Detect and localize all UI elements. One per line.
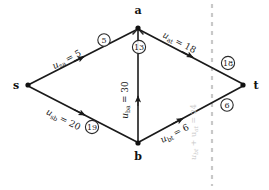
circled-number-at-value: 18 xyxy=(223,59,233,68)
circled-number-sa-value: 5 xyxy=(101,36,106,45)
node-label-t: t xyxy=(253,79,259,92)
node-dot-t[interactable] xyxy=(240,82,245,87)
circled-number-bt: 6 xyxy=(221,99,233,111)
network-flow-diagram: s a b t usa= 5 usb= 20 uba= 30 uat= 18 xyxy=(0,0,269,190)
edge-label-ba: uba= 30 xyxy=(120,81,132,119)
circled-number-ba: 13 xyxy=(132,40,145,53)
cut-annotation-eq: = 24 xyxy=(189,104,198,126)
edge-label-sb-eq: = 20 xyxy=(58,113,82,132)
circled-number-sa: 5 xyxy=(98,34,110,46)
edge-label-at-eq: = 18 xyxy=(174,36,198,55)
svg-text:uba= 30: uba= 30 xyxy=(120,81,132,119)
circled-number-at: 18 xyxy=(221,56,234,69)
circled-number-sb: 19 xyxy=(85,120,98,133)
svg-text:usa= 5: usa= 5 xyxy=(51,48,84,73)
svg-text:ubt= 6: ubt= 6 xyxy=(159,122,192,147)
edge-label-ba-eq: = 30 xyxy=(120,81,130,103)
svg-text:ubt + uat = 24: ubt + uat = 24 xyxy=(189,104,199,160)
circled-number-ba-value: 13 xyxy=(134,43,144,52)
circled-number-sb-value: 19 xyxy=(87,123,97,132)
node-label-b: b xyxy=(134,150,142,163)
cut-annotation: ubt + uat = 24 xyxy=(189,104,199,160)
edge-label-bt: ubt= 6 xyxy=(159,122,192,147)
cut-annotation-mid: + u xyxy=(189,132,198,149)
edge-label-bt-eq: = 6 xyxy=(172,122,191,138)
node-dot-b[interactable] xyxy=(135,140,140,145)
circled-number-bt-value: 6 xyxy=(224,101,229,110)
edge-label-sa: usa= 5 xyxy=(51,48,84,73)
node-label-a: a xyxy=(134,4,141,17)
node-label-s: s xyxy=(13,79,19,92)
node-dot-a[interactable] xyxy=(135,25,140,30)
node-dot-s[interactable] xyxy=(25,82,30,87)
edge-label-ba-sub: ba xyxy=(124,105,132,113)
figure-canvas: s a b t usa= 5 usb= 20 uba= 30 uat= 18 xyxy=(0,0,269,190)
edge-sa xyxy=(30,30,137,85)
